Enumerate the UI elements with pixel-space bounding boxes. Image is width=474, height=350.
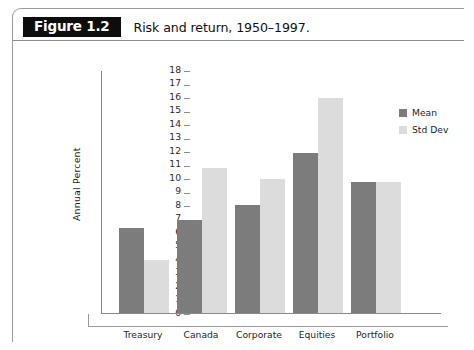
zero-baseline xyxy=(101,313,441,314)
bar-std-dev xyxy=(260,179,285,314)
legend-item: Mean xyxy=(399,106,448,119)
header-divider xyxy=(13,40,464,41)
legend-swatch xyxy=(399,126,407,134)
bar-mean xyxy=(351,182,376,314)
legend-swatch xyxy=(399,109,407,117)
legend-item: Std Dev xyxy=(399,123,448,136)
figure-number-badge: Figure 1.2 xyxy=(23,17,121,38)
x-axis-label-line: Bonds xyxy=(209,341,309,343)
bar-group xyxy=(235,71,285,314)
x-axis-label: Portfolio xyxy=(325,330,425,341)
bar-mean xyxy=(177,220,202,315)
figure-header: Figure 1.2 Risk and return, 1950–1997. xyxy=(23,15,310,39)
chart-legend: MeanStd Dev xyxy=(399,106,448,140)
bar-std-dev xyxy=(144,260,169,314)
bar-mean xyxy=(293,153,318,314)
legend-label: Std Dev xyxy=(412,124,448,135)
bar-mean xyxy=(119,228,144,314)
x-axis-label-line: Portfolio xyxy=(325,330,425,341)
bar-std-dev xyxy=(376,182,401,314)
plot-area: 0123456789101112131415161718 Annual Perc… xyxy=(101,71,396,314)
bar-mean xyxy=(235,205,260,314)
x-axis-line xyxy=(88,326,448,327)
figure-panel: Figure 1.2 Risk and return, 1950–1997. 0… xyxy=(12,8,464,342)
bar-std-dev xyxy=(318,98,343,314)
y-axis-title: Annual Percent xyxy=(71,147,82,221)
legend-label: Mean xyxy=(412,107,437,118)
bar-group xyxy=(177,71,227,314)
bar-std-dev xyxy=(202,168,227,314)
bar-group xyxy=(293,71,343,314)
figure-caption: Risk and return, 1950–1997. xyxy=(134,20,310,35)
bar-group xyxy=(351,71,401,314)
bar-group xyxy=(119,71,169,314)
